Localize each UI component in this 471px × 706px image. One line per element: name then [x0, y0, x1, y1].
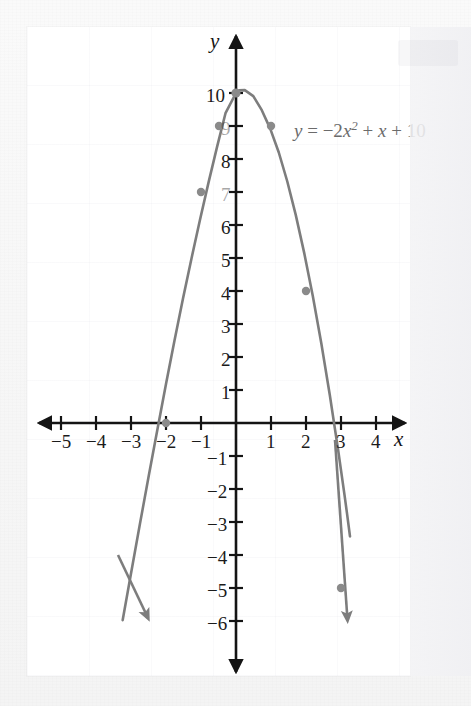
- ytick-label-neg6: −6: [207, 614, 227, 633]
- coordinate-plane-plot: [0, 0, 471, 706]
- x-axis: [39, 416, 405, 430]
- ytick-label-7: 7: [221, 185, 231, 204]
- equation-term1-coef: −2: [323, 120, 343, 141]
- xtick-label-neg2: −2: [156, 432, 176, 451]
- point-3-neg5: [337, 584, 345, 592]
- point-neg1-7: [197, 188, 205, 196]
- ytick-label-2: 2: [221, 350, 231, 369]
- ytick-label-9: 9: [221, 119, 231, 138]
- ytick-label-1: 1: [221, 383, 231, 402]
- xtick-label-neg5: −5: [51, 432, 71, 451]
- y-axis: [229, 36, 243, 672]
- xtick-label-neg3: −3: [121, 432, 141, 451]
- ytick-label-neg1: −1: [207, 449, 227, 468]
- ytick-label-6: 6: [221, 218, 231, 237]
- spacer: [123, 620, 148, 625]
- xtick-label-1: 1: [266, 432, 276, 451]
- curve-arrow-tails: [118, 440, 348, 620]
- equation-term1-exponent: 2: [351, 118, 357, 133]
- equation-plus-1: +: [363, 120, 374, 141]
- point-neg2-0: [162, 419, 170, 427]
- ytick-label-8: 8: [221, 152, 231, 171]
- ytick-label-3: 3: [221, 317, 231, 336]
- x-axis-label: x: [394, 427, 403, 452]
- xtick-label-4: 4: [371, 432, 381, 451]
- ytick-label-10: 10: [206, 86, 225, 105]
- equation-annotation: y = −2x2 + x + 10: [294, 118, 426, 142]
- ytick-label-neg5: −5: [207, 581, 227, 600]
- equation-plus-2: +: [391, 120, 402, 141]
- xtick-label-neg4: −4: [86, 432, 106, 451]
- equation-constant: 10: [407, 120, 426, 141]
- point-1-9: [267, 122, 275, 130]
- equation-equals: =: [307, 120, 318, 141]
- point-2-4: [302, 287, 310, 295]
- ytick-label-4: 4: [221, 284, 231, 303]
- point-0-10: [231, 88, 240, 97]
- ytick-label-neg2: −2: [207, 482, 227, 501]
- xtick-label-2: 2: [301, 432, 311, 451]
- ytick-label-neg4: −4: [207, 548, 227, 567]
- ytick-label-neg3: −3: [207, 515, 227, 534]
- plotted-points: [162, 88, 345, 592]
- y-axis-label: y: [210, 29, 219, 54]
- xtick-label-3: 3: [336, 432, 346, 451]
- equation-term2: x: [378, 120, 386, 141]
- equation-lhs: y: [294, 120, 302, 141]
- ytick-label-5: 5: [221, 251, 231, 270]
